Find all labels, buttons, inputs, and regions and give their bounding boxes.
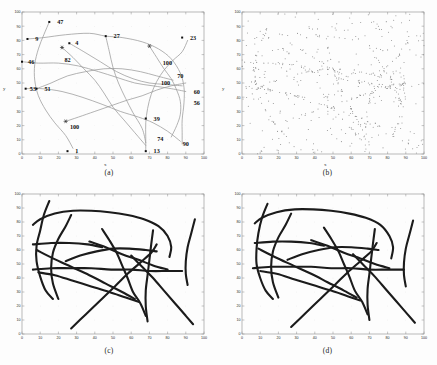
svg-text:50: 50 [111,336,115,340]
svg-text:0: 0 [241,336,243,340]
svg-text:70: 70 [16,234,20,238]
svg-text:0: 0 [18,152,20,156]
panel-a-xlabel: x [104,162,107,167]
svg-text:74: 74 [157,135,163,142]
svg-text:100: 100 [421,156,427,160]
svg-text:30: 30 [16,290,20,294]
svg-text:51: 51 [44,85,50,92]
svg-text:80: 80 [166,336,170,340]
svg-text:10: 10 [16,318,20,322]
svg-text:40: 40 [313,336,317,340]
panel-b: 0102030405060708090100010203040506070809… [218,2,437,184]
svg-text:0: 0 [18,332,20,336]
svg-text:100: 100 [70,123,79,130]
svg-text:20: 20 [16,124,20,128]
svg-text:20: 20 [236,304,240,308]
svg-text:56: 56 [194,99,200,106]
svg-text:0: 0 [238,332,240,336]
svg-text:20: 20 [276,336,280,340]
svg-text:60: 60 [349,336,353,340]
svg-text:0: 0 [238,152,240,156]
svg-text:40: 40 [236,276,240,280]
svg-text:20: 20 [16,304,20,308]
svg-text:70: 70 [236,234,240,238]
svg-text:50: 50 [331,156,335,160]
svg-text:50: 50 [16,81,20,85]
svg-text:10: 10 [236,318,240,322]
svg-text:20: 20 [236,124,240,128]
svg-text:50: 50 [16,262,20,266]
svg-text:40: 40 [93,156,97,160]
svg-text:30: 30 [236,110,240,114]
svg-text:10: 10 [258,156,262,160]
svg-text:100: 100 [421,336,427,340]
svg-text:50: 50 [111,156,115,160]
panel-c-caption: (c) [0,346,218,355]
svg-text:100: 100 [234,192,240,196]
svg-text:10: 10 [38,336,42,340]
panel-b-xlabel: x [324,162,327,167]
svg-text:47: 47 [57,18,63,25]
svg-text:90: 90 [236,25,240,29]
svg-text:90: 90 [236,206,240,210]
svg-text:23: 23 [190,34,196,41]
svg-text:70: 70 [177,72,183,79]
svg-text:50: 50 [236,262,240,266]
svg-text:39: 39 [154,115,160,122]
svg-text:20: 20 [276,156,280,160]
svg-text:46: 46 [28,58,34,65]
panel-b-ylabel: y [222,86,225,91]
svg-text:0: 0 [21,156,23,160]
panel-d-plot: 0102030405060708090100010203040506070809… [218,184,437,365]
svg-text:60: 60 [349,156,353,160]
svg-text:90: 90 [183,140,189,147]
svg-text:100: 100 [234,10,240,14]
panel-a: 0102030405060708090100010203040506070809… [0,2,218,184]
svg-text:40: 40 [236,96,240,100]
svg-text:100: 100 [14,10,20,14]
svg-text:10: 10 [258,336,262,340]
panel-c: 0102030405060708090100010203040506070809… [0,184,218,365]
svg-text:30: 30 [295,156,299,160]
svg-text:4: 4 [75,39,78,46]
svg-text:100: 100 [161,79,170,86]
svg-text:90: 90 [184,156,188,160]
svg-text:30: 30 [75,336,79,340]
panel-b-caption: (b) [218,168,437,177]
svg-text:50: 50 [236,81,240,85]
svg-text:60: 60 [236,67,240,71]
svg-text:82: 82 [64,56,70,63]
svg-text:9: 9 [35,35,38,42]
svg-text:70: 70 [367,156,371,160]
svg-text:100: 100 [14,192,20,196]
svg-text:60: 60 [129,336,133,340]
svg-text:53: 53 [30,85,36,92]
svg-text:40: 40 [313,156,317,160]
svg-text:100: 100 [201,336,207,340]
panel-d-caption: (d) [218,346,437,355]
svg-text:20: 20 [56,336,60,340]
svg-text:0: 0 [241,156,243,160]
svg-text:100: 100 [201,156,207,160]
svg-text:70: 70 [236,53,240,57]
svg-text:60: 60 [16,248,20,252]
svg-text:90: 90 [16,206,20,210]
svg-text:80: 80 [236,39,240,43]
svg-text:40: 40 [93,336,97,340]
svg-text:40: 40 [16,96,20,100]
svg-text:60: 60 [129,156,133,160]
svg-text:80: 80 [166,156,170,160]
panel-b-plot: 0102030405060708090100010203040506070809… [218,2,437,184]
svg-text:80: 80 [386,336,390,340]
svg-text:30: 30 [75,156,79,160]
svg-text:80: 80 [386,156,390,160]
svg-text:40: 40 [16,276,20,280]
svg-text:10: 10 [236,138,240,142]
svg-text:30: 30 [16,110,20,114]
svg-text:10: 10 [38,156,42,160]
panel-a-plot: 0102030405060708090100010203040506070809… [0,2,218,184]
svg-text:60: 60 [236,248,240,252]
svg-text:100: 100 [163,59,172,66]
panel-a-ylabel: y [3,86,6,91]
svg-text:10: 10 [16,138,20,142]
